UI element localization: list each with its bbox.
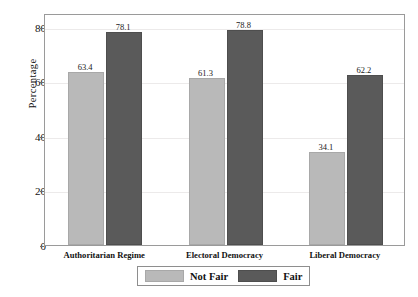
bar xyxy=(227,30,263,245)
legend-item: Not Fair xyxy=(145,270,228,282)
bar-value-label: 78.1 xyxy=(116,22,131,32)
legend-item: Fair xyxy=(238,270,302,282)
legend-swatch xyxy=(145,270,184,282)
y-tick-mark xyxy=(40,246,44,247)
legend-label: Fair xyxy=(283,271,302,282)
figure-caption xyxy=(6,289,306,297)
bar-chart: Percentage 020406080 63.478.161.378.834.… xyxy=(0,0,418,297)
bar xyxy=(106,32,142,245)
bar-value-label: 78.8 xyxy=(236,20,251,30)
bar xyxy=(309,152,345,245)
x-axis-category-label: Authoritarian Regime xyxy=(63,250,144,260)
plot-area xyxy=(44,14,405,246)
bar-value-label: 61.3 xyxy=(198,68,213,78)
x-axis-category-label: Electoral Democracy xyxy=(186,250,263,260)
bar xyxy=(347,75,383,245)
bars-layer xyxy=(45,15,404,245)
bar-value-label: 62.2 xyxy=(356,65,371,75)
x-axis-category-label: Liberal Democracy xyxy=(309,250,380,260)
bar-value-label: 34.1 xyxy=(318,142,333,152)
chart-legend: Not FairFair xyxy=(137,266,310,286)
legend-swatch xyxy=(238,270,277,282)
bar xyxy=(189,78,225,245)
legend-label: Not Fair xyxy=(190,271,228,282)
bar xyxy=(68,72,104,245)
bar-value-label: 63.4 xyxy=(78,62,93,72)
